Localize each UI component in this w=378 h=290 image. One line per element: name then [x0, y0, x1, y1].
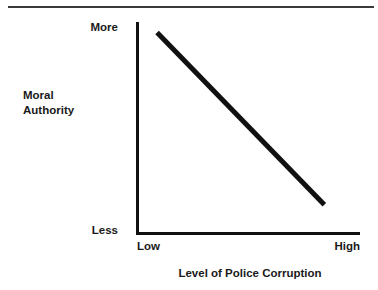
y-axis-title-line-2: Authority [23, 103, 119, 118]
y-axis-title-line-1: Moral [23, 88, 119, 103]
y-axis-tick-label-less: Less [72, 223, 118, 237]
x-axis-tick-label-high: High [300, 239, 360, 253]
x-axis-title: Level of Police Corruption [150, 266, 350, 280]
x-axis-tick-label-low: Low [137, 239, 160, 253]
figure-canvas: More Less Moral Authority Low High Level… [0, 0, 378, 290]
y-axis-tick-label-more: More [72, 20, 118, 34]
y-axis-title: Moral Authority [23, 88, 119, 118]
plot-area: More Less Moral Authority Low High Level… [0, 0, 378, 290]
trend-line [157, 33, 324, 205]
